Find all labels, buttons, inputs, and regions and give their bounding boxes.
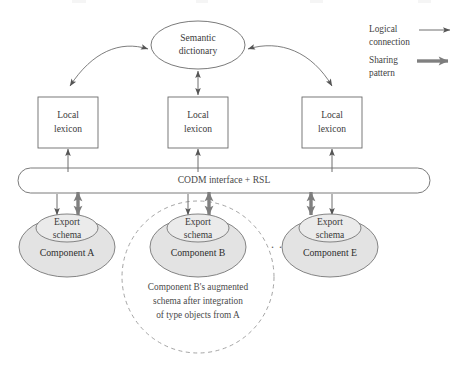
local-lexicon-b[interactable]: Local lexicon: [168, 97, 228, 148]
component-a-name-label: Component A: [40, 247, 95, 258]
local-lexicon-a[interactable]: Local lexicon: [38, 97, 98, 148]
component-a-export-label-line1: Export: [54, 217, 80, 227]
component-e-export-label-line2: schema: [316, 230, 345, 240]
component-e[interactable]: Export schema Component E: [282, 214, 378, 277]
local-lexicon-a-box: [38, 97, 98, 148]
local-lexicon-e-label-line1: Local: [321, 110, 343, 120]
component-b-export-label-line2: schema: [184, 230, 213, 240]
semantic-dictionary-ellipse: [151, 21, 245, 69]
semantic-dictionary-label-line2: dictionary: [179, 46, 218, 56]
legend-sharing-pattern-line2: pattern: [369, 68, 395, 78]
legend: Logical connection Sharing pattern: [369, 24, 450, 78]
local-lexicon-e[interactable]: Local lexicon: [302, 97, 362, 148]
legend-logical-connection-line2: connection: [369, 37, 410, 47]
augmented-caption-line1: Component B's augmented: [148, 282, 249, 292]
local-lexicon-e-label-line2: lexicon: [318, 124, 346, 134]
augmented-schema-caption: Component B's augmented schema after int…: [148, 282, 249, 320]
architecture-diagram: Semantic dictionary Local lexicon Local …: [0, 0, 463, 371]
semantic-dictionary-node[interactable]: Semantic dictionary: [151, 21, 245, 69]
component-e-name-label: Component E: [303, 247, 357, 258]
local-lexicon-b-label-line2: lexicon: [184, 124, 212, 134]
augmented-caption-line2: schema after integration: [153, 296, 243, 306]
component-b-export-label-line1: Export: [185, 217, 211, 227]
codm-interface-bar[interactable]: CODM interface + RSL: [18, 168, 430, 193]
component-a-export-label-line2: schema: [53, 230, 82, 240]
scan-artifact-row: [72, 0, 431, 3]
legend-logical-connection-line1: Logical: [369, 24, 398, 34]
component-b-name-label: Component B: [171, 247, 226, 258]
legend-sharing-pattern: Sharing pattern: [369, 55, 448, 78]
component-a[interactable]: Export schema Component A: [19, 214, 115, 277]
local-lexicon-a-label-line2: lexicon: [54, 124, 82, 134]
semantic-dictionary-label-line1: Semantic: [180, 33, 215, 43]
legend-logical-connection: Logical connection: [369, 24, 450, 47]
component-e-export-label-line1: Export: [317, 217, 343, 227]
local-lexicon-b-box: [168, 97, 228, 148]
edge-dictionary-to-lexicon-a: [70, 46, 148, 86]
local-lexicon-e-box: [302, 97, 362, 148]
legend-sharing-pattern-line1: Sharing: [369, 55, 398, 65]
diagram-page: Semantic dictionary Local lexicon Local …: [0, 0, 463, 371]
augmented-caption-line3: of type objects from A: [156, 310, 240, 320]
component-b[interactable]: Export schema Component B: [150, 214, 246, 277]
edge-dictionary-to-lexicon-e: [248, 46, 332, 86]
codm-interface-bar-label: CODM interface + RSL: [178, 174, 271, 185]
local-lexicon-b-label-line1: Local: [187, 110, 209, 120]
local-lexicon-a-label-line1: Local: [57, 110, 79, 120]
